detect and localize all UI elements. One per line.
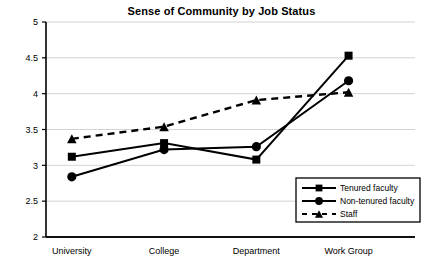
marker-square <box>316 185 323 192</box>
y-axis <box>42 22 46 237</box>
y-tick-labels: 54.543.532.52 <box>25 17 38 242</box>
chart-container: Sense of Community by Job Status 54.543.… <box>0 0 443 269</box>
series-line <box>72 56 349 160</box>
marker-circle <box>67 172 76 181</box>
series-line <box>72 92 349 139</box>
y-tick-label: 3.5 <box>25 125 38 135</box>
x-tick-label: University <box>52 246 92 256</box>
x-tick-label: Department <box>233 246 281 256</box>
legend-item-non-tenured-faculty[interactable]: Non-tenured faculty <box>302 196 415 206</box>
x-tick-label: Work Group <box>324 246 372 256</box>
marker-square <box>252 156 260 164</box>
y-tick-label: 2.5 <box>25 196 38 206</box>
y-tick-label: 2 <box>33 232 38 242</box>
marker-circle <box>252 142 261 151</box>
series-staff <box>67 88 353 144</box>
marker-circle <box>315 197 323 205</box>
y-tick-label: 4 <box>33 89 38 99</box>
data-series <box>67 52 353 182</box>
marker-square <box>68 153 76 161</box>
x-tick-labels: UniversityCollegeDepartmentWork Group <box>52 246 373 256</box>
legend-label: Staff <box>340 209 358 219</box>
marker-square <box>345 52 353 60</box>
legend-label: Non-tenured faculty <box>340 196 415 206</box>
marker-circle <box>344 76 353 85</box>
y-tick-label: 4.5 <box>25 53 38 63</box>
legend-label: Tenured faculty <box>340 183 398 193</box>
marker-circle <box>159 145 168 154</box>
x-tick-label: College <box>149 246 180 256</box>
chart-legend: Tenured facultyNon-tenured facultyStaff <box>296 178 420 222</box>
chart-plot: 54.543.532.52 UniversityCollegeDepartmen… <box>0 0 443 269</box>
y-tick-label: 3 <box>33 161 38 171</box>
y-tick-label: 5 <box>33 17 38 27</box>
